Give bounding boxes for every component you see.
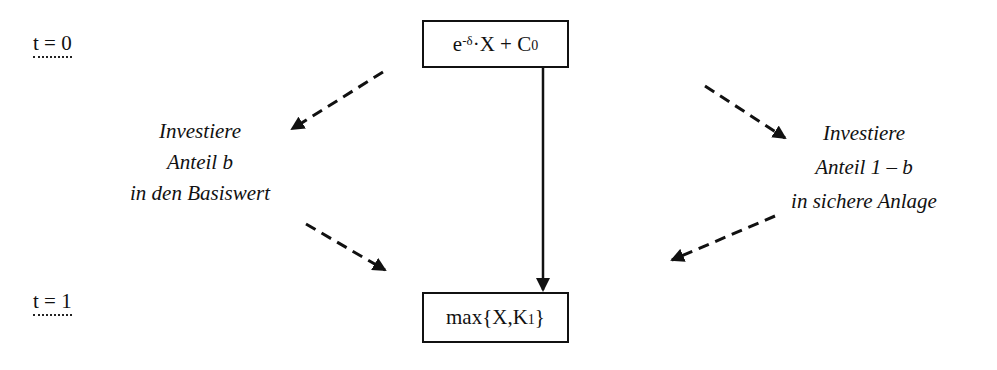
- bottom-right-dashed-arrow: [672, 216, 775, 260]
- time-label-t0: t = 0: [33, 31, 72, 58]
- bottom-box-prefix: max{X,K: [446, 305, 528, 330]
- right-note-line-1: Investiere: [764, 116, 964, 150]
- left-note-invest-underlying: Investiere Anteil b in den Basiswert: [100, 116, 300, 209]
- right-note-line-2: Anteil 1 – b: [764, 150, 964, 184]
- time-label-t1: t = 1: [33, 289, 72, 316]
- bottom-left-dashed-arrow: [306, 224, 385, 270]
- left-note-line-3: in den Basiswert: [100, 178, 300, 209]
- top-box-base: e: [453, 32, 462, 57]
- top-box-subscript: 0: [531, 38, 538, 54]
- top-box-initial-value: e-δ·X + C0: [422, 20, 569, 68]
- left-note-line-1: Investiere: [100, 116, 300, 147]
- bottom-box-suffix: }: [535, 305, 545, 330]
- left-note-line-2: Anteil b: [100, 147, 300, 178]
- top-box-exponent: -δ: [462, 33, 472, 49]
- top-box-middle: ·X + C: [473, 32, 532, 57]
- top-left-dashed-arrow: [292, 72, 383, 129]
- bottom-box-payoff: max{X,K1}: [422, 292, 569, 343]
- right-note-invest-safe: Investiere Anteil 1 – b in sichere Anlag…: [764, 116, 964, 218]
- right-note-line-3: in sichere Anlage: [764, 184, 964, 218]
- bottom-box-subscript: 1: [528, 312, 535, 328]
